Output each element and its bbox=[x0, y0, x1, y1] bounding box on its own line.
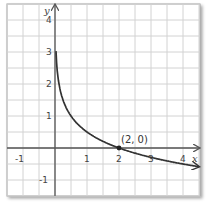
x-tick-label: 1 bbox=[84, 154, 90, 164]
y-tick-label: 1 bbox=[46, 111, 52, 121]
y-tick-label: 3 bbox=[46, 47, 52, 57]
y-tick-label: 2 bbox=[46, 79, 52, 89]
point-label: (2, 0) bbox=[121, 134, 148, 145]
x-tick-label: 3 bbox=[148, 154, 154, 164]
graph: y x -1 1 2 3 4 4 3 2 1 -1 (2, 0) bbox=[0, 0, 209, 204]
y-tick-label: -1 bbox=[39, 175, 48, 185]
x-tick-label: -1 bbox=[15, 154, 24, 164]
point-2-0 bbox=[117, 146, 122, 151]
x-tick-label: 2 bbox=[116, 154, 122, 164]
x-axis-label: x bbox=[192, 153, 198, 164]
x-tick-label: 4 bbox=[180, 154, 186, 164]
y-tick-label: 4 bbox=[46, 15, 52, 25]
